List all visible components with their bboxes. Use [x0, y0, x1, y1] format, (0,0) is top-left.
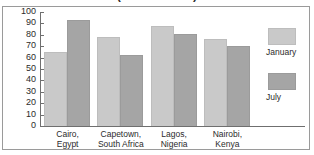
x-axis-label-line: Lagos,: [161, 129, 187, 139]
y-tick-label: 100: [21, 6, 36, 16]
legend-label: July: [266, 92, 281, 102]
bar-january: [44, 52, 67, 126]
bar-july: [227, 46, 250, 126]
y-tick-label: 20: [26, 97, 36, 107]
x-axis-label-line: Capetown,: [101, 129, 142, 139]
x-axis-labels: Cairo,EgyptCapetown,South AfricaLagos,Ni…: [41, 129, 254, 151]
bar-july: [67, 20, 90, 126]
bar-january: [97, 37, 120, 126]
legend-entry: January: [266, 28, 310, 62]
bar-group: [148, 12, 201, 126]
legend-entry: July: [266, 73, 310, 107]
bar-group: [41, 12, 94, 126]
legend-label: January: [266, 47, 296, 57]
y-tick-label: 10: [26, 109, 36, 119]
y-tick-label: 40: [26, 74, 36, 84]
y-tick-label: 80: [26, 29, 36, 39]
chart-title: (in Fahrenheit): [0, 0, 314, 3]
x-axis-label-line: Cairo,: [56, 129, 79, 139]
bar-group: [94, 12, 147, 126]
legend-swatch: [268, 28, 296, 45]
bar-january: [151, 26, 174, 126]
x-axis-line: [40, 126, 305, 127]
x-axis-label: Nairobi,Kenya: [193, 129, 262, 149]
y-tick-label: 70: [26, 40, 36, 50]
bars-layer: [41, 12, 254, 126]
y-tick-mark: [41, 126, 44, 127]
y-tick-label: 50: [26, 63, 36, 73]
bar-july: [174, 34, 197, 126]
bar-group: [201, 12, 254, 126]
y-tick-label: 90: [26, 17, 36, 27]
bar-july: [120, 55, 143, 126]
x-axis-label-line: Kenya: [193, 139, 262, 149]
bar-january: [204, 39, 227, 126]
x-axis-label-line: Nairobi,: [213, 129, 242, 139]
y-tick-label: 60: [26, 52, 36, 62]
legend-swatch: [268, 73, 296, 90]
y-tick-label: 30: [26, 86, 36, 96]
bar-chart: (in Fahrenheit) 1009080706050403020100 C…: [0, 0, 314, 155]
